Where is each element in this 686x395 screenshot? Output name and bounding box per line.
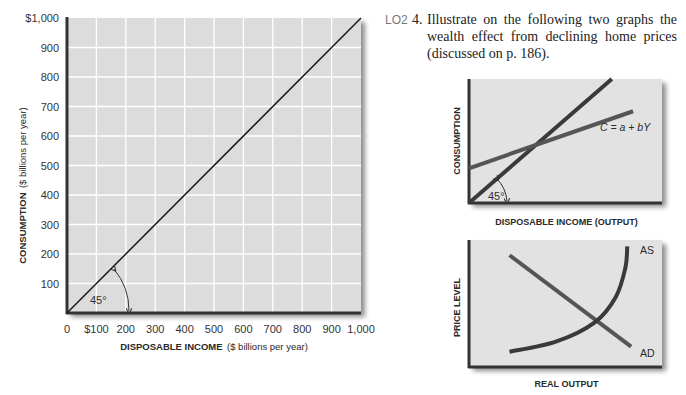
main-y-tick-label: 800 xyxy=(41,71,59,83)
main-y-tick-label: 400 xyxy=(41,189,59,201)
as-curve-label: AS xyxy=(640,244,654,256)
as-ad-sketch-y-label: PRICE LEVEL xyxy=(452,277,462,337)
main-y-tick-label: 900 xyxy=(41,42,59,54)
main-x-tick-labels: 0$1002003004005006007008009001,000 xyxy=(64,323,375,335)
figure-canvas: 0$1002003004005006007008009001,000 10020… xyxy=(0,0,686,395)
main-y-tick-label: 600 xyxy=(41,130,59,142)
main-y-axis-label-units: ($ billions per year) xyxy=(17,107,28,188)
main-y-tick-label: $1,000 xyxy=(25,12,59,24)
as-ad-sketch-chart: AS AD REAL OUTPUT PRICE LEVEL xyxy=(452,240,662,389)
main-x-tick-label: 700 xyxy=(264,323,282,335)
consumption-sketch-y-label: CONSUMPTION xyxy=(452,107,462,175)
consumption-sketch-chart: C = a + bY 45° DISPOSABLE INCOME (OUTPUT… xyxy=(452,79,662,227)
main-x-tick-label: 200 xyxy=(117,323,135,335)
ad-curve-label: AD xyxy=(640,347,655,359)
consumption-sketch-angle-label: 45° xyxy=(488,190,505,202)
main-x-tick-label: 900 xyxy=(322,323,340,335)
main-x-tick-label: 400 xyxy=(175,323,193,335)
main-angle-label: 45° xyxy=(90,294,107,306)
main-x-axis-label: DISPOSABLE INCOME ($ billions per year) xyxy=(120,336,308,353)
main-x-tick-label: $100 xyxy=(84,323,108,335)
main-y-tick-label: 100 xyxy=(41,278,59,290)
main-y-axis-label: CONSUMPTION ($ billions per year) xyxy=(12,107,29,264)
main-x-axis-label-units: ($ billions per year) xyxy=(227,341,308,352)
main-y-tick-labels: 100200300400500600700800900$1,000 xyxy=(25,12,59,290)
main-x-tick-label: 500 xyxy=(205,323,223,335)
main-x-tick-label: 600 xyxy=(234,323,252,335)
main-y-tick-label: 200 xyxy=(41,248,59,260)
main-x-tick-label: 300 xyxy=(146,323,164,335)
main-x-axis-label-bold: DISPOSABLE INCOME xyxy=(120,341,222,352)
as-ad-sketch-background xyxy=(469,240,662,367)
main-chart: 0$1002003004005006007008009001,000 10020… xyxy=(12,12,375,353)
as-ad-sketch-x-label: REAL OUTPUT xyxy=(535,379,599,389)
consumption-sketch-x-label: DISPOSABLE INCOME (OUTPUT) xyxy=(495,217,638,227)
main-x-tick-label: 0 xyxy=(64,323,70,335)
main-x-tick-label: 800 xyxy=(293,323,311,335)
main-y-tick-label: 700 xyxy=(41,101,59,113)
main-y-axis-label-bold: CONSUMPTION xyxy=(17,192,28,263)
main-x-tick-label: 1,000 xyxy=(347,323,375,335)
main-y-tick-label: 500 xyxy=(41,160,59,172)
consumption-sketch-background xyxy=(469,79,662,203)
consumption-function-label: C = a + bY xyxy=(600,121,651,133)
main-y-tick-label: 300 xyxy=(41,219,59,231)
